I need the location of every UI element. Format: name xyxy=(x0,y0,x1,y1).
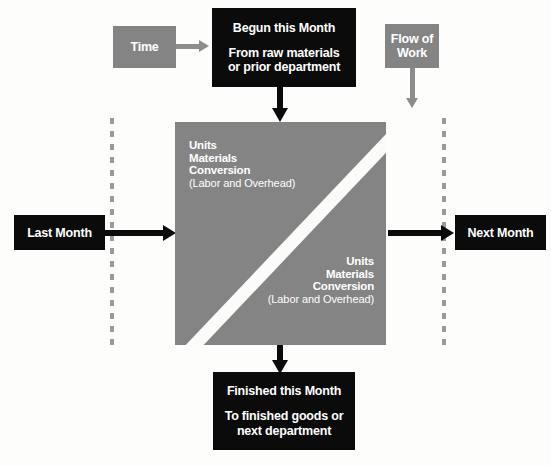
last-month-box: Last Month xyxy=(14,215,105,250)
begun-heading: Begun this Month xyxy=(233,21,335,35)
legend-time-box: Time xyxy=(113,26,176,68)
begun-line2: or prior department xyxy=(228,60,340,75)
finished-this-month-box: Finished this Month To finished goods or… xyxy=(213,372,355,450)
lower-right-cost-label: Units Materials Conversion (Labor and Ov… xyxy=(268,255,374,305)
begun-this-month-box: Begun this Month From raw materials or p… xyxy=(212,8,356,87)
lower-right-line3: Conversion xyxy=(268,280,374,293)
next-month-label: Next Month xyxy=(467,226,533,240)
lower-right-line1: Units xyxy=(268,255,374,268)
lower-right-line2: Materials xyxy=(268,268,374,281)
upper-left-line2: Materials xyxy=(189,152,295,165)
finished-line2: next department xyxy=(225,424,344,439)
work-in-process-square: Units Materials Conversion (Labor and Ov… xyxy=(175,122,386,345)
begun-line1: From raw materials xyxy=(228,46,340,61)
flow-arrow-shaft xyxy=(410,68,415,100)
finished-line1: To finished goods or xyxy=(225,409,344,424)
upper-left-line3: Conversion xyxy=(189,164,295,177)
right-arrow-shaft xyxy=(388,230,442,236)
flow-down-arrow-icon xyxy=(406,98,418,108)
legend-time-label: Time xyxy=(130,40,158,54)
time-right-arrow-icon xyxy=(199,40,209,52)
upper-left-line1: Units xyxy=(189,139,295,152)
upper-left-note: (Labor and Overhead) xyxy=(189,177,295,190)
legend-flow-of-work-box: Flow of Work xyxy=(385,24,439,68)
finished-heading: Finished this Month xyxy=(227,384,341,398)
lower-right-note: (Labor and Overhead) xyxy=(268,293,374,306)
left-arrow-shaft xyxy=(104,230,164,236)
upper-left-cost-label: Units Materials Conversion (Labor and Ov… xyxy=(189,139,295,189)
right-right-arrow-icon xyxy=(441,225,454,241)
last-month-label: Last Month xyxy=(27,226,92,240)
top-down-arrow-icon xyxy=(272,108,288,122)
next-month-box: Next Month xyxy=(455,215,546,250)
top-arrow-shaft xyxy=(277,86,283,110)
legend-flow-line2: Work xyxy=(397,46,427,60)
time-arrow-shaft xyxy=(176,44,200,49)
process-costing-diagram: Time Flow of Work Begun this Month From … xyxy=(0,0,551,466)
legend-flow-line1: Flow of xyxy=(391,32,433,46)
